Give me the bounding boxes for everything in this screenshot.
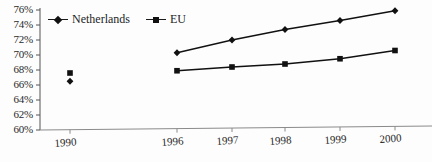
data-point-marker xyxy=(67,70,73,76)
data-point-marker xyxy=(392,48,398,54)
x-axis-tick-label: 1998 xyxy=(269,133,292,147)
y-axis-ticks xyxy=(36,10,40,130)
y-axis-tick-label: 68% xyxy=(0,63,33,75)
x-axis-tick-label: 1999 xyxy=(324,132,347,146)
x-axis-tick-label: 1997 xyxy=(216,133,239,147)
series-line xyxy=(177,51,395,71)
data-point-marker xyxy=(282,26,289,33)
x-axis-tick-label: 1996 xyxy=(161,134,184,148)
data-point-marker xyxy=(229,37,236,44)
y-axis-tick-label: 64% xyxy=(0,93,33,105)
diamond-marker-icon xyxy=(48,16,68,24)
y-axis-tick-label: 62% xyxy=(0,108,33,120)
legend-item: Netherlands xyxy=(48,12,130,27)
x-axis-ticks xyxy=(70,126,395,133)
y-axis-tick-label: 76% xyxy=(0,3,33,15)
data-point-marker xyxy=(67,78,74,85)
y-axis-tick-label: 66% xyxy=(0,78,33,90)
legend-item-label: EU xyxy=(170,12,186,27)
x-axis-tick-label: 1990 xyxy=(54,135,77,149)
legend-item-label: Netherlands xyxy=(72,12,130,27)
x-axis-tick-label: 2000 xyxy=(379,132,402,146)
data-point-marker xyxy=(282,61,288,67)
square-marker-icon xyxy=(146,16,166,24)
y-axis-tick-label: 70% xyxy=(0,48,33,60)
y-axis-tick-label: 74% xyxy=(0,18,33,30)
data-point-marker xyxy=(174,68,180,74)
data-point-marker xyxy=(174,49,181,56)
y-axis-tick-label: 72% xyxy=(0,33,33,45)
data-point-marker xyxy=(229,64,235,70)
data-point-marker xyxy=(337,17,344,24)
data-point-marker xyxy=(392,7,399,14)
chart-series-eu xyxy=(67,48,398,76)
y-axis-tick-label: 60% xyxy=(0,123,33,135)
legend-item: EU xyxy=(146,12,186,27)
line-chart: 76%74%72%70%68%66%64%62%60% 199019961997… xyxy=(0,0,432,162)
chart-legend: NetherlandsEU xyxy=(48,12,186,27)
data-point-marker xyxy=(337,56,343,62)
